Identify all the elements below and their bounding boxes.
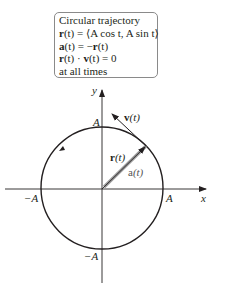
acceleration-label: a(t)	[128, 167, 143, 178]
x-pos-tick: A	[166, 193, 173, 204]
direction-arrow-icon	[59, 146, 65, 151]
y-axis-label: y	[92, 85, 97, 96]
diagram-canvas	[0, 0, 225, 292]
x-neg-tick: −A	[24, 193, 38, 204]
position-label: r(t)	[110, 152, 125, 163]
x-axis-label: x	[201, 193, 206, 204]
y-neg-tick: −A	[84, 251, 98, 262]
velocity-label: v(t)	[124, 112, 140, 123]
y-pos-tick: A	[93, 117, 100, 128]
